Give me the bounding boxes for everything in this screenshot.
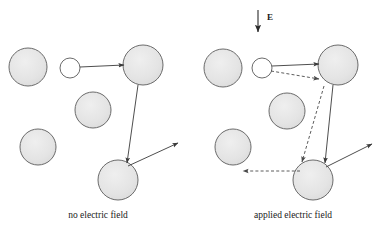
panel-applied-field: applied electric field <box>204 45 372 220</box>
sphere-bottom <box>98 160 138 200</box>
arrow-bottom-outgoing <box>326 144 372 167</box>
diagram-canvas: E no electric field applied electric fie… <box>0 0 379 233</box>
sphere-middle <box>75 92 111 128</box>
arrow-upper-right-to-bottom <box>325 85 333 163</box>
sphere-upper-left <box>204 49 242 87</box>
sphere-upper-left <box>9 48 47 86</box>
field-indicator: E <box>258 10 273 32</box>
sphere-upper-right <box>123 45 163 85</box>
dashed-arrow-upper-right-to-bottom <box>302 86 324 162</box>
arrow-white-to-upper-right <box>80 65 124 67</box>
sphere-upper-right <box>318 45 358 85</box>
field-label-E: E <box>267 12 273 22</box>
caption-no-electric-field: no electric field <box>68 210 128 220</box>
sphere-small-white <box>252 58 272 78</box>
dashed-arrow-white-to-upper-right <box>271 71 319 79</box>
sphere-lower-left <box>20 129 56 165</box>
panel-no-field: no electric field <box>9 45 178 220</box>
arrow-white-to-upper-right <box>272 64 319 66</box>
arrow-bottom-outgoing <box>128 143 178 166</box>
caption-applied-electric-field: applied electric field <box>254 210 332 220</box>
sphere-lower-left <box>215 129 251 165</box>
sphere-small-white <box>60 58 80 78</box>
sphere-middle <box>269 93 305 129</box>
arrow-upper-right-to-bottom <box>127 85 138 163</box>
